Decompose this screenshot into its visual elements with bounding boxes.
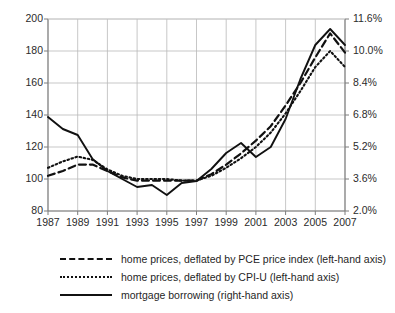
- y-axis-right-tick-label: 5.2%: [353, 141, 395, 151]
- chart-plot-svg: [0, 0, 395, 240]
- legend-swatch-dotted-line: [60, 272, 112, 282]
- y-axis-left-tick-label: 160: [2, 77, 43, 87]
- y-axis-left-tick-label: 180: [2, 45, 43, 55]
- y-axis-left-tick-label: 100: [2, 173, 43, 183]
- legend-label-mortgage: mortgage borrowing (right-hand axis): [121, 289, 293, 301]
- y-axis-right-tick-label: 6.8%: [353, 109, 395, 119]
- legend-item-mortgage: mortgage borrowing (right-hand axis): [60, 286, 380, 304]
- y-axis-right-tick-label: 3.6%: [353, 173, 395, 183]
- y-axis-left-tick-label: 120: [2, 141, 43, 151]
- y-axis-left-tick-label: 140: [2, 109, 43, 119]
- x-axis-tick-label: 2007: [328, 217, 362, 227]
- legend-label-cpiu: home prices, deflated by CPI-U (left-han…: [121, 271, 339, 283]
- line-chart: 801001201401601802002.0%3.6%5.2%6.8%8.4%…: [0, 0, 395, 313]
- legend-swatch-solid-line: [60, 290, 112, 300]
- legend-swatch-dashed-line: [60, 254, 112, 264]
- y-axis-right-tick-label: 11.6%: [353, 13, 395, 23]
- y-axis-right-tick-label: 10.0%: [353, 45, 395, 55]
- legend-label-pce: home prices, deflated by PCE price index…: [121, 253, 386, 265]
- y-axis-left-tick-label: 80: [2, 205, 43, 215]
- y-axis-left-tick-label: 200: [2, 13, 43, 23]
- y-axis-right-tick-label: 2.0%: [353, 205, 395, 215]
- y-axis-right-tick-label: 8.4%: [353, 77, 395, 87]
- chart-legend: home prices, deflated by PCE price index…: [60, 250, 380, 304]
- legend-item-cpiu: home prices, deflated by CPI-U (left-han…: [60, 268, 380, 286]
- legend-item-pce: home prices, deflated by PCE price index…: [60, 250, 380, 268]
